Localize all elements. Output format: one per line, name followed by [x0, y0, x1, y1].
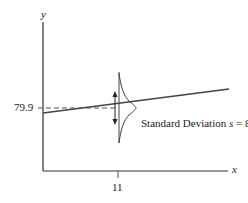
arrow-down-icon [113, 119, 118, 125]
diagram-canvas [0, 0, 248, 203]
arrow-up-icon [113, 91, 118, 97]
regression-line [43, 89, 229, 113]
annotation-suffix: = 8 [233, 117, 248, 129]
x-tick-label: 11 [112, 182, 123, 193]
x-axis-label: x [232, 164, 237, 175]
normal-curve [119, 73, 136, 143]
std-dev-annotation: Standard Deviation s = 8 [141, 118, 248, 129]
annotation-prefix: Standard Deviation [141, 117, 229, 129]
y-axis-label: y [41, 9, 46, 20]
y-value-label: 79.9 [14, 102, 33, 113]
